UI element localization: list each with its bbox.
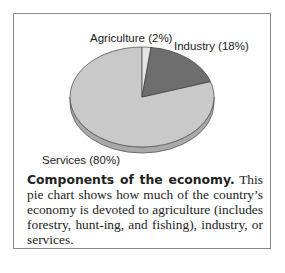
label-agriculture: Agriculture (2%) [90,32,172,44]
label-industry: Industry (18%) [174,40,249,52]
figure-caption: Components of the economy. This pie char… [27,172,263,247]
label-services: Services (80%) [42,154,120,166]
caption-title: Components of the economy. [27,172,235,187]
